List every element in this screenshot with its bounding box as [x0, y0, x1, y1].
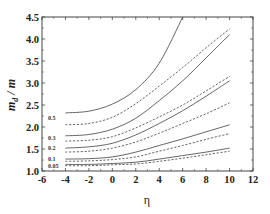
curve-label: 0.1 [48, 156, 56, 162]
curve-label: 0.2 [48, 145, 56, 151]
x-tick-label: 12 [248, 174, 259, 185]
curve-label: 0.5 [48, 115, 56, 121]
y-tick-label: 1.0 [26, 166, 39, 177]
x-tick-label: -4 [61, 174, 70, 185]
curve-label: 0.3 [48, 135, 56, 141]
y-tick-label: 2.5 [26, 100, 39, 111]
chart: -6-4-20246810121.01.52.02.53.03.54.04.5 … [0, 0, 270, 214]
y-tick-label: 2.0 [26, 122, 39, 133]
curve-label: 0.05 [48, 163, 59, 169]
x-tick-label: 10 [224, 174, 235, 185]
x-tick-label: 2 [133, 174, 138, 185]
axis-ticks: -6-4-20246810121.01.52.02.53.03.54.04.5 [26, 12, 258, 186]
y-axis-title-rest: / m [4, 79, 18, 98]
dashed-curve [65, 76, 229, 141]
y-axis-title: md / m [4, 79, 20, 111]
solid-curve [65, 148, 229, 164]
y-axis-title-m: m [4, 102, 18, 111]
y-tick-label: 3.0 [26, 78, 39, 89]
solid-curve [65, 125, 229, 159]
solid-curve [65, 35, 229, 136]
y-tick-label: 1.5 [26, 144, 39, 155]
solid-curve [65, 17, 182, 113]
x-tick-label: 6 [180, 174, 185, 185]
svg-text:md / m: md / m [4, 79, 20, 111]
x-axis-title: η [144, 193, 150, 207]
x-tick-label: 4 [157, 174, 163, 185]
y-tick-label: 4.0 [26, 34, 39, 45]
x-tick-label: 8 [203, 174, 208, 185]
y-tick-label: 3.5 [26, 56, 39, 67]
x-tick-label: 0 [110, 174, 115, 185]
curves [65, 17, 229, 166]
curve-labels: 0.50.30.20.10.05 [48, 115, 59, 169]
x-tick-label: -2 [85, 174, 94, 185]
y-tick-label: 4.5 [26, 12, 39, 23]
